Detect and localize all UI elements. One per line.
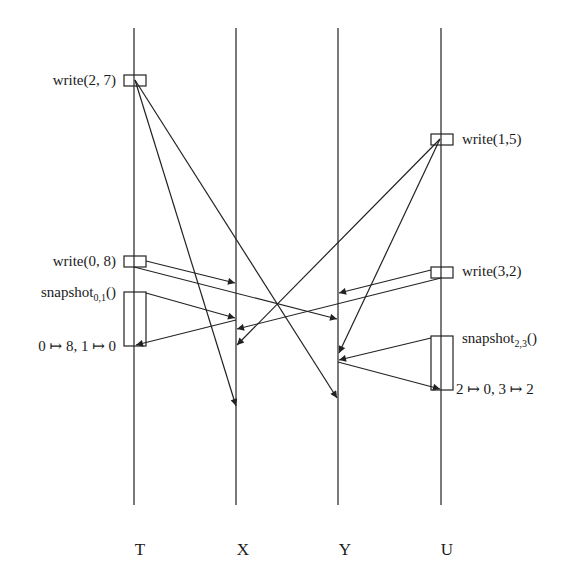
message-sequence-diagram: write(2, 7) write(1,5) write(0, 8) write… (0, 0, 566, 580)
msg-write08-to-X (146, 261, 235, 283)
write-3-2-box (431, 267, 453, 278)
result-snapshot-0-1: 0 ↦ 8, 1 ↦ 0 (38, 338, 116, 354)
label-write-3-2: write(3,2) (462, 263, 522, 280)
label-write-0-8: write(0, 8) (53, 253, 116, 270)
process-label-Y: Y (339, 540, 351, 559)
msg-snapshot01-to-X (146, 293, 235, 318)
msg-Y-to-snapshot23 (338, 362, 440, 389)
result-snapshot-2-3: 2 ↦ 0, 3 ↦ 2 (456, 381, 534, 397)
snapshot-0-1-box (124, 292, 146, 346)
msg-write32-to-X (237, 278, 441, 329)
msg-write15-to-Y (339, 139, 440, 353)
process-label-T: T (135, 540, 146, 559)
label-snapshot-0-1: snapshot0,1() (41, 284, 116, 303)
label-write-2-7: write(2, 7) (53, 72, 116, 89)
write-0-8-box (124, 256, 146, 267)
msg-write27-to-X (135, 80, 236, 406)
label-write-1-5: write(1,5) (462, 131, 522, 148)
write-1-5-box (431, 134, 453, 145)
label-snapshot-2-3: snapshot2,3() (462, 330, 537, 349)
process-label-X: X (237, 540, 249, 559)
msg-write32-to-Y (339, 270, 431, 293)
process-label-U: U (441, 540, 453, 559)
msg-X-to-snapshot01 (136, 320, 236, 345)
snapshot-2-3-box (431, 336, 453, 390)
msg-snapshot23-to-Y (339, 338, 431, 360)
